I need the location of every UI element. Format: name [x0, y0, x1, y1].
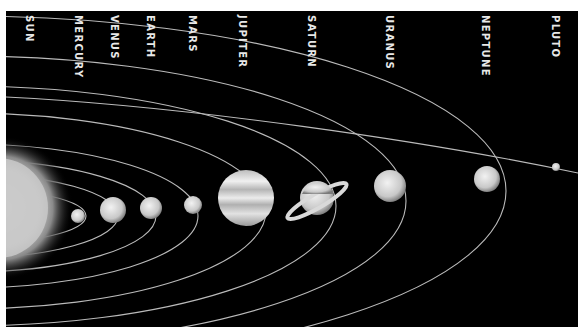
label-jupiter: JUPITER: [237, 15, 248, 68]
label-neptune: NEPTUNE: [480, 15, 491, 77]
planet-saturn: [284, 178, 350, 224]
planet-jupiter: [218, 170, 274, 226]
label-uranus: URANUS: [384, 15, 395, 70]
solar-system-diagram: SUN MERCURY VENUS EARTH MARS JUPITER SAT…: [6, 11, 578, 327]
label-venus: VENUS: [109, 15, 120, 60]
orbit-pluto: [6, 97, 578, 173]
label-pluto: PLUTO: [550, 15, 561, 58]
planet-neptune: [474, 166, 500, 192]
planet-venus: [100, 197, 126, 223]
planet-mercury: [71, 209, 85, 223]
label-earth: EARTH: [145, 15, 156, 59]
label-saturn: SATURN: [306, 15, 317, 68]
planet-earth: [140, 197, 162, 219]
planet-mars: [184, 196, 202, 214]
label-mercury: MERCURY: [73, 15, 84, 78]
orbit-scene: [6, 11, 578, 327]
label-sun: SUN: [24, 15, 35, 43]
planet-pluto: [552, 163, 560, 171]
planet-uranus: [374, 170, 406, 202]
label-mars: MARS: [187, 15, 198, 53]
